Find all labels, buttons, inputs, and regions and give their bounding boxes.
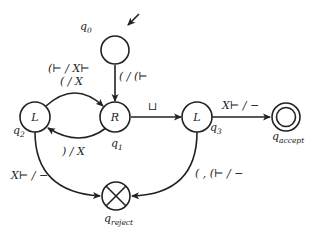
edge-q3-reject	[132, 132, 197, 196]
edge-q2-reject	[35, 132, 100, 196]
label-edge-q0-q1: ( / (⊢	[119, 70, 148, 83]
state-q3: L	[182, 102, 212, 132]
label-edge-q2-q1-line2: ( / X	[60, 75, 84, 88]
svg-text:R: R	[110, 111, 119, 124]
state-q1: R	[100, 102, 130, 132]
label-reject: qreject	[104, 212, 134, 227]
label-edge-q1-q2: ) / X	[61, 145, 86, 158]
start-arrow	[128, 14, 139, 25]
label-edge-q1-q3: ⊔	[148, 100, 157, 113]
state-accept	[272, 103, 300, 131]
state-diagram: R L L q0 q1 q2 q3 qaccept qreject ( / (⊢…	[0, 0, 312, 233]
state-q2: L	[20, 102, 50, 132]
state-q0	[101, 36, 129, 64]
label-edge-q2-reject: X⊢ / −	[10, 169, 48, 182]
svg-text:L: L	[30, 111, 38, 124]
label-q1: q1	[111, 137, 123, 152]
label-q3: q3	[210, 121, 222, 136]
label-accept: qaccept	[272, 130, 305, 145]
edge-q2-q1	[46, 93, 103, 106]
label-edge-q3-accept: X⊢ / −	[221, 99, 259, 112]
svg-text:L: L	[192, 111, 200, 124]
state-reject	[102, 182, 130, 210]
edge-q1-q2	[48, 128, 106, 138]
label-q0: q0	[80, 20, 92, 35]
label-edge-q3-reject: ( , (⊢ / −	[195, 167, 243, 180]
label-edge-q2-q1-line1: (⊢ / X⊢	[48, 62, 90, 75]
